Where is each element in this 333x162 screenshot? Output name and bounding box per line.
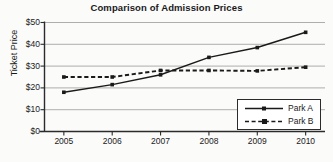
x-tick-label: 2007 bbox=[141, 136, 181, 146]
series-marker bbox=[62, 75, 66, 79]
legend-item-park-b: Park B bbox=[238, 115, 322, 128]
x-tick-label: 2009 bbox=[237, 136, 277, 146]
legend-label-park-b: Park B bbox=[288, 116, 314, 126]
data-series-layer bbox=[62, 31, 307, 95]
series-marker bbox=[62, 90, 66, 94]
x-tick-label: 2010 bbox=[286, 136, 326, 146]
legend-label-park-a: Park A bbox=[288, 103, 313, 113]
x-tick-label: 2006 bbox=[92, 136, 132, 146]
legend-line-sample-dashed bbox=[243, 115, 285, 128]
series-line bbox=[64, 67, 306, 77]
series-marker bbox=[304, 31, 308, 35]
series-marker bbox=[255, 69, 259, 73]
series-marker bbox=[159, 73, 163, 77]
chart-legend: Park A Park B bbox=[237, 99, 321, 130]
chart-container: Comparison of Admission Prices Ticket Pr… bbox=[0, 0, 333, 162]
legend-item-park-a: Park A bbox=[238, 102, 322, 115]
x-tick-label: 2005 bbox=[44, 136, 84, 146]
series-marker bbox=[255, 46, 259, 50]
legend-line-sample-solid bbox=[243, 102, 285, 115]
series-line bbox=[64, 32, 306, 92]
series-marker bbox=[304, 65, 308, 69]
series-marker bbox=[207, 69, 211, 73]
series-marker bbox=[207, 56, 211, 60]
series-marker bbox=[110, 75, 114, 79]
x-tick-label: 2008 bbox=[189, 136, 229, 146]
series-marker bbox=[110, 83, 114, 87]
series-marker bbox=[159, 69, 163, 73]
